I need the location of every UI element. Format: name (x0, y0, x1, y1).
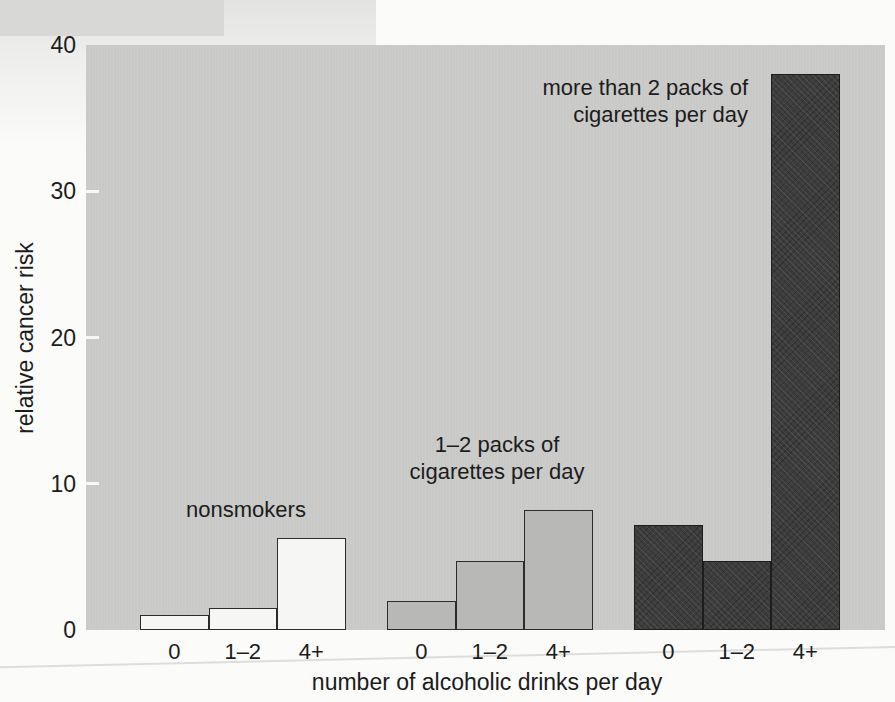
scan-strip-artifact (0, 0, 224, 36)
cancer-risk-bar-chart-figure: relative cancer risk number of alcoholic… (0, 0, 895, 702)
bar-series1-drinks-0 (387, 601, 456, 630)
bar-series2-drinks-1–2 (703, 561, 772, 630)
y-tick-label-10: 10 (14, 471, 76, 497)
y-tick-mark-20 (86, 336, 99, 339)
series-label-2-line-0: more than 2 packs of (543, 74, 748, 101)
bar-series0-drinks-4+ (277, 538, 346, 630)
bar-series2-drinks-4+ (771, 74, 840, 630)
x-axis-title: number of alcoholic drinks per day (312, 669, 662, 696)
bar-series2-drinks-0 (634, 525, 703, 630)
y-tick-mark-10 (86, 482, 99, 485)
x-tick-label-g0-4+: 4+ (271, 639, 351, 665)
series-label-1-line-1: cigarettes per day (410, 458, 585, 485)
series-label-0-line-0: nonsmokers (186, 496, 306, 523)
x-tick-label-g2-4+: 4+ (765, 639, 845, 665)
series-label-1: 1–2 packs ofcigarettes per day (410, 431, 585, 485)
bar-series0-drinks-0 (140, 615, 209, 630)
y-tick-label-20: 20 (14, 325, 76, 351)
y-tick-label-30: 30 (14, 178, 76, 204)
bar-series1-drinks-4+ (524, 510, 593, 630)
y-tick-mark-30 (86, 190, 99, 193)
x-tick-label-g1-4+: 4+ (518, 639, 598, 665)
bar-series0-drinks-1–2 (209, 608, 278, 630)
y-tick-label-0: 0 (14, 617, 76, 643)
plot-area (86, 45, 885, 630)
series-label-2-line-1: cigarettes per day (543, 101, 748, 128)
series-label-2: more than 2 packs ofcigarettes per day (543, 74, 748, 128)
bar-series1-drinks-1–2 (456, 561, 525, 630)
y-tick-label-40: 40 (14, 32, 76, 58)
series-label-1-line-0: 1–2 packs of (410, 431, 585, 458)
series-label-0: nonsmokers (186, 496, 306, 523)
